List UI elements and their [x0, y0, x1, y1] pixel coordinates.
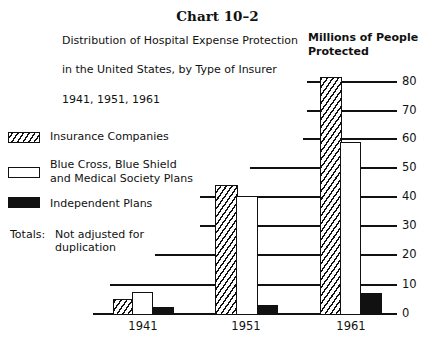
y-tick-20: 20: [402, 247, 432, 261]
chart-title-line-2: in the United States, by Type of Insurer: [62, 63, 277, 76]
y-tick-60: 60: [402, 131, 432, 145]
legend-label-blue-cross-line-2: and Medical Society Plans: [50, 172, 193, 186]
bar-1941-insurance-companies: [113, 299, 134, 315]
gridline-60: [303, 138, 397, 140]
notes-text-line-1: Not adjusted for: [55, 228, 144, 241]
y-axis-title-line-2: Protected: [308, 45, 435, 59]
notes-text: Not adjusted for duplication: [55, 228, 144, 254]
legend-label-insurance-companies: Insurance Companies: [50, 130, 169, 144]
bar-1941-independent-plans: [152, 307, 174, 315]
y-axis-title-line-1: Millions of People: [308, 31, 435, 45]
notes-text-line-2: duplication: [55, 241, 144, 254]
bar-1951-blue-cross: [236, 196, 258, 315]
y-tick-0: 0: [402, 306, 432, 320]
legend-swatch-insurance-companies: [8, 132, 40, 143]
notes-label: Totals:: [10, 228, 45, 241]
bar-1961-insurance-companies: [320, 77, 342, 315]
y-tick-50: 50: [402, 160, 432, 174]
legend-swatch-independent-plans: [8, 197, 40, 208]
y-tick-10: 10: [402, 277, 432, 291]
chart-number: Chart 10–2: [0, 8, 435, 24]
legend-label-independent-plans: Independent Plans: [50, 197, 152, 211]
y-axis-title: Millions of People Protected: [308, 31, 435, 59]
y-tick-30: 30: [402, 218, 432, 232]
bar-1951-insurance-companies: [215, 185, 238, 315]
x-label-1951: 1951: [216, 319, 276, 333]
x-label-1941: 1941: [113, 319, 173, 333]
chart-title-line-1: Distribution of Hospital Expense Protect…: [62, 34, 298, 47]
bar-1961-blue-cross: [340, 142, 361, 315]
legend-swatch-blue-cross: [8, 167, 40, 178]
chart-title-line-3: 1941, 1951, 1961: [62, 93, 160, 106]
legend-label-blue-cross-line-1: Blue Cross, Blue Shield: [50, 158, 193, 172]
x-label-1961: 1961: [321, 319, 381, 333]
bar-1961-independent-plans: [360, 293, 382, 315]
bar-1951-independent-plans: [257, 305, 278, 315]
bar-1941-blue-cross: [132, 292, 153, 315]
y-tick-70: 70: [402, 103, 432, 117]
y-tick-80: 80: [402, 74, 432, 88]
legend-label-blue-cross: Blue Cross, Blue Shield and Medical Soci…: [50, 158, 193, 186]
y-tick-40: 40: [402, 189, 432, 203]
